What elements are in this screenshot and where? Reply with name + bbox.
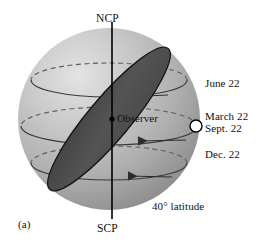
label-june-solstice: June 22	[205, 77, 240, 89]
label-march-equinox: March 22	[205, 110, 248, 122]
label-december-solstice: Dec. 22	[205, 148, 240, 160]
label-south-celestial-pole: SCP	[97, 222, 118, 234]
label-observer: Observer	[117, 112, 158, 124]
panel-label: (a)	[18, 218, 31, 230]
celestial-sphere-diagram: NCP SCP Observer June 22 March 22 Sept. …	[0, 0, 259, 247]
label-latitude: 40° latitude	[152, 200, 204, 212]
observer-marker	[109, 116, 114, 121]
label-september-equinox: Sept. 22	[205, 122, 242, 134]
label-north-celestial-pole: NCP	[96, 12, 119, 24]
sun-marker	[190, 120, 202, 132]
